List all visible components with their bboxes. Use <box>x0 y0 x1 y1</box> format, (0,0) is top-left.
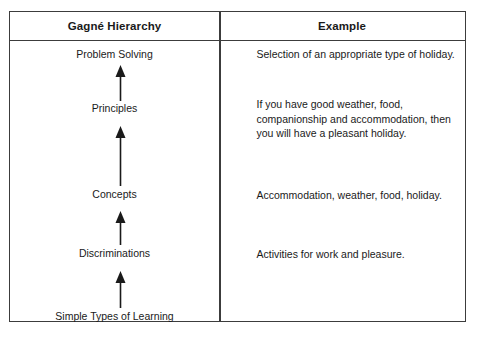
up-arrow-icon-principles-to-problem-solving <box>114 65 127 101</box>
hierarchy-level-principles: Principles <box>10 102 219 114</box>
example-text-problem-solving: Selection of an appropriate type of holi… <box>257 47 456 62</box>
hierarchy-level-discriminations: Discriminations <box>10 247 219 259</box>
table-header-row: Gagné Hierarchy Example <box>10 12 465 41</box>
hierarchy-level-problem-solving: Problem Solving <box>10 48 219 60</box>
hierarchy-column: Problem Solving Principles Concepts <box>10 41 219 321</box>
up-arrow-icon-simple-types-to-discriminations <box>114 271 127 308</box>
table-body: Problem Solving Principles Concepts <box>10 41 465 321</box>
up-arrow-icon-discriminations-to-concepts <box>114 211 127 245</box>
example-text-concepts: Accommodation, weather, food, holiday. <box>257 188 456 203</box>
example-text-discriminations: Activities for work and pleasure. <box>257 247 456 262</box>
hierarchy-level-simple-types-of-learning: Simple Types of Learning <box>10 310 219 322</box>
hierarchy-level-concepts: Concepts <box>10 188 219 200</box>
column-header-hierarchy: Gagné Hierarchy <box>10 12 219 40</box>
up-arrow-icon-concepts-to-principles <box>114 126 127 186</box>
example-text-principles: If you have good weather, food, companio… <box>257 97 456 141</box>
column-header-example: Example <box>219 12 465 40</box>
example-column: Selection of an appropriate type of holi… <box>221 41 466 321</box>
gagne-hierarchy-table: Gagné Hierarchy Example Problem Solving … <box>9 11 466 322</box>
